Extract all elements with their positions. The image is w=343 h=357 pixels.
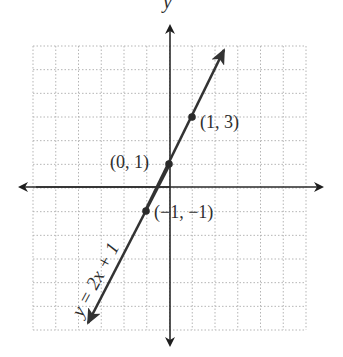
coordinate-plane: y (1, 3) (0, 1) (−1, −1) y = 2x + 1 bbox=[0, 0, 343, 357]
label-point-0-1: (0, 1) bbox=[110, 152, 149, 173]
label-point-neg1-neg1: (−1, −1) bbox=[154, 202, 213, 223]
point-1-3 bbox=[188, 113, 196, 121]
label-point-1-3: (1, 3) bbox=[200, 112, 239, 133]
point-0-1 bbox=[165, 160, 173, 168]
y-axis-label: y bbox=[161, 0, 172, 13]
point-neg1-neg1 bbox=[142, 207, 150, 215]
